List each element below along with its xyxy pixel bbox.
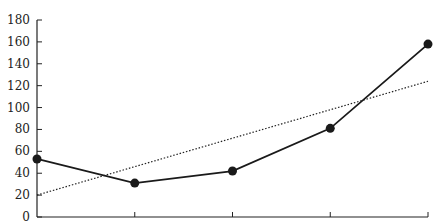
data-point-marker [326,124,335,133]
y-tick-label: 100 [7,101,30,115]
y-tick-label: 80 [15,122,30,136]
x-axis-ticks [135,212,428,217]
data-point-marker [130,179,139,188]
data-point-marker [228,167,237,176]
y-tick-label: 120 [7,79,30,93]
y-tick-label: 140 [7,57,30,71]
data-point-marker [424,40,433,49]
y-tick-label: 40 [15,166,30,180]
data-point-marker [33,154,42,163]
y-tick-label: 60 [15,144,30,158]
trend-line [37,81,428,195]
y-tick-label: 0 [22,210,30,221]
data-line [37,44,428,183]
y-tick-label: 20 [15,188,30,202]
y-tick-label: 180 [7,13,30,27]
y-tick-label: 160 [7,35,30,49]
line-chart: 020406080100120140160180 [0,0,437,221]
data-markers [33,40,433,188]
